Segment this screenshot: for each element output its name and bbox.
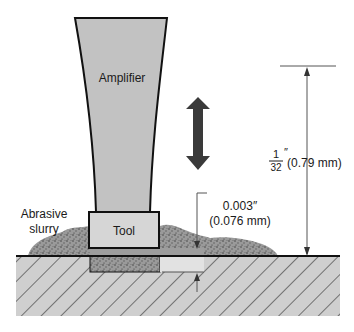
- ultrasonic-machining-diagram: Amplifier Tool Abrasive slurry 1 ″ 32 (0…: [0, 0, 354, 332]
- amplitude-fraction-numerator: 1: [273, 148, 279, 160]
- amplitude-mm-label: (0.79 mm): [287, 156, 342, 170]
- amplitude-arrowhead-bottom-icon: [304, 247, 310, 256]
- abrasive-label-line1: Abrasive: [21, 207, 68, 221]
- gap-region: [160, 256, 204, 272]
- amplifier-label: Amplifier: [99, 71, 146, 85]
- tool-label: Tool: [113, 224, 135, 238]
- amplifier-horn: [75, 18, 167, 212]
- gap-mm-label: (0.076 mm): [209, 214, 270, 228]
- abrasive-label-line2: slurry: [29, 222, 58, 236]
- slurry-layer: [90, 248, 204, 256]
- gap-inch-label: 0.003″: [223, 199, 258, 213]
- vibration-arrow-icon: [186, 97, 210, 170]
- amplitude-fraction-denominator: 32: [270, 162, 282, 173]
- machined-cavity: [90, 256, 160, 272]
- amplitude-arrowhead-top-icon: [304, 67, 310, 76]
